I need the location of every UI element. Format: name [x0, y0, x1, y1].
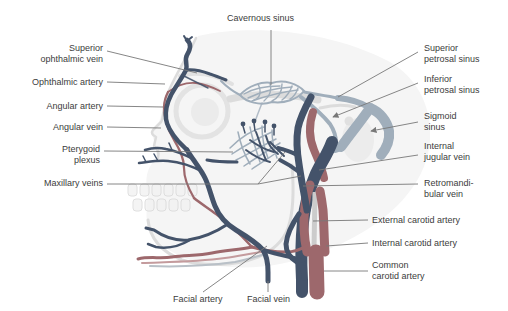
- label-sigmoid-sinus: Sigmoid sinus: [424, 111, 457, 132]
- carotid-gap: [314, 192, 315, 248]
- label-internal-carotid-artery: Internal carotid artery: [372, 238, 457, 249]
- label-facial-vein: Facial vein: [247, 294, 290, 305]
- label-inferior-petrosal-sinus: Inferior petrosal sinus: [424, 74, 480, 95]
- internal-carotid-vessel: [320, 191, 325, 252]
- label-superior-ophthalmic-vein: Superior ophthalmic vein: [40, 43, 103, 64]
- eye-globe: [191, 98, 219, 126]
- label-angular-artery: Angular artery: [46, 101, 103, 112]
- label-common-carotid-artery: Common carotid artery: [372, 260, 425, 281]
- label-angular-vein: Angular vein: [53, 122, 103, 133]
- anatomy-figure: Cavernous sinus Superior ophthalmic vein…: [0, 0, 508, 311]
- label-pterygoid-plexus: Pterygoid plexus: [62, 144, 100, 165]
- leader-angular-artery: [107, 106, 163, 107]
- leader-angular-vein: [107, 127, 161, 128]
- label-external-carotid-artery: External carotid artery: [372, 215, 460, 226]
- label-retromandibular-vein: Retromandi- bular vein: [424, 178, 474, 199]
- common-carotid-vessel: [316, 252, 317, 292]
- label-internal-jugular-vein: Internal jugular vein: [424, 141, 470, 162]
- label-cavernous-sinus: Cavernous sinus: [227, 13, 294, 24]
- label-facial-artery: Facial artery: [173, 294, 223, 305]
- label-superior-petrosal-sinus: Superior petrosal sinus: [424, 43, 480, 64]
- label-ophthalmic-artery: Ophthalmic artery: [32, 77, 103, 88]
- label-maxillary-veins: Maxillary veins: [44, 178, 103, 189]
- leader-ophthalmic-artery: [107, 82, 165, 84]
